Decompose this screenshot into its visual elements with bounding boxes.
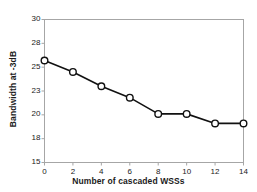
y-tick-label: 30	[15, 14, 41, 23]
x-axis-title: Number of cascaded WSSs	[0, 176, 257, 186]
plot-frame	[45, 20, 244, 163]
y-tick-label: 20	[15, 109, 41, 118]
x-tick-label: 0	[35, 167, 55, 176]
chart-figure: 15182023252830 02468101214 Bandwidth at …	[0, 0, 257, 192]
y-tick-label: 18	[15, 133, 41, 142]
x-tick-label: 14	[234, 167, 254, 176]
x-tick-label: 6	[120, 167, 140, 176]
y-tick-label: 23	[15, 86, 41, 95]
x-tick-label: 2	[63, 167, 83, 176]
x-tick-label: 10	[177, 167, 197, 176]
x-tick-label: 12	[205, 167, 225, 176]
y-axis-title: Bandwidth at -3dB	[8, 19, 18, 159]
x-tick-label: 4	[91, 167, 111, 176]
y-tick-label: 15	[15, 157, 41, 166]
x-tick-label: 8	[148, 167, 168, 176]
y-tick-label: 25	[15, 62, 41, 71]
y-tick-label: 28	[15, 38, 41, 47]
